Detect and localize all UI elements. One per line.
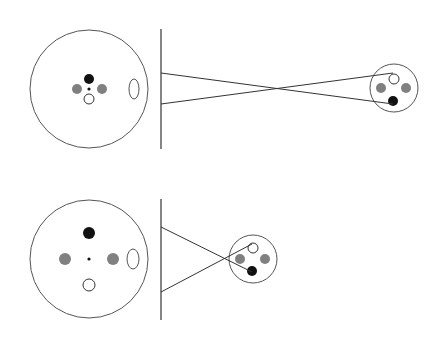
object-center-dot (87, 87, 90, 90)
aperture-ellipse (127, 249, 139, 269)
ray-line (161, 227, 252, 272)
object-gray-dot (72, 84, 82, 94)
bottom-panel (30, 199, 277, 320)
optics-diagram (0, 0, 448, 342)
object-white-dot (83, 279, 95, 291)
ray-line (161, 244, 252, 292)
object-white-dot (84, 94, 94, 104)
object-gray-dot (59, 253, 71, 265)
object-black-dot (84, 74, 94, 84)
image-gray-dot (376, 83, 386, 93)
image-gray-dot (235, 254, 245, 264)
aperture-ellipse (129, 79, 139, 99)
image-gray-dot (260, 254, 270, 264)
image-white-dot (248, 243, 258, 253)
object-center-dot (87, 257, 90, 260)
object-gray-dot (107, 253, 119, 265)
object-gray-dot (97, 84, 107, 94)
image-black-dot (247, 266, 257, 276)
image-gray-dot (401, 83, 411, 93)
object-black-dot (83, 227, 95, 239)
image-black-dot (388, 96, 398, 106)
top-panel (30, 29, 418, 149)
image-white-dot (389, 74, 399, 84)
